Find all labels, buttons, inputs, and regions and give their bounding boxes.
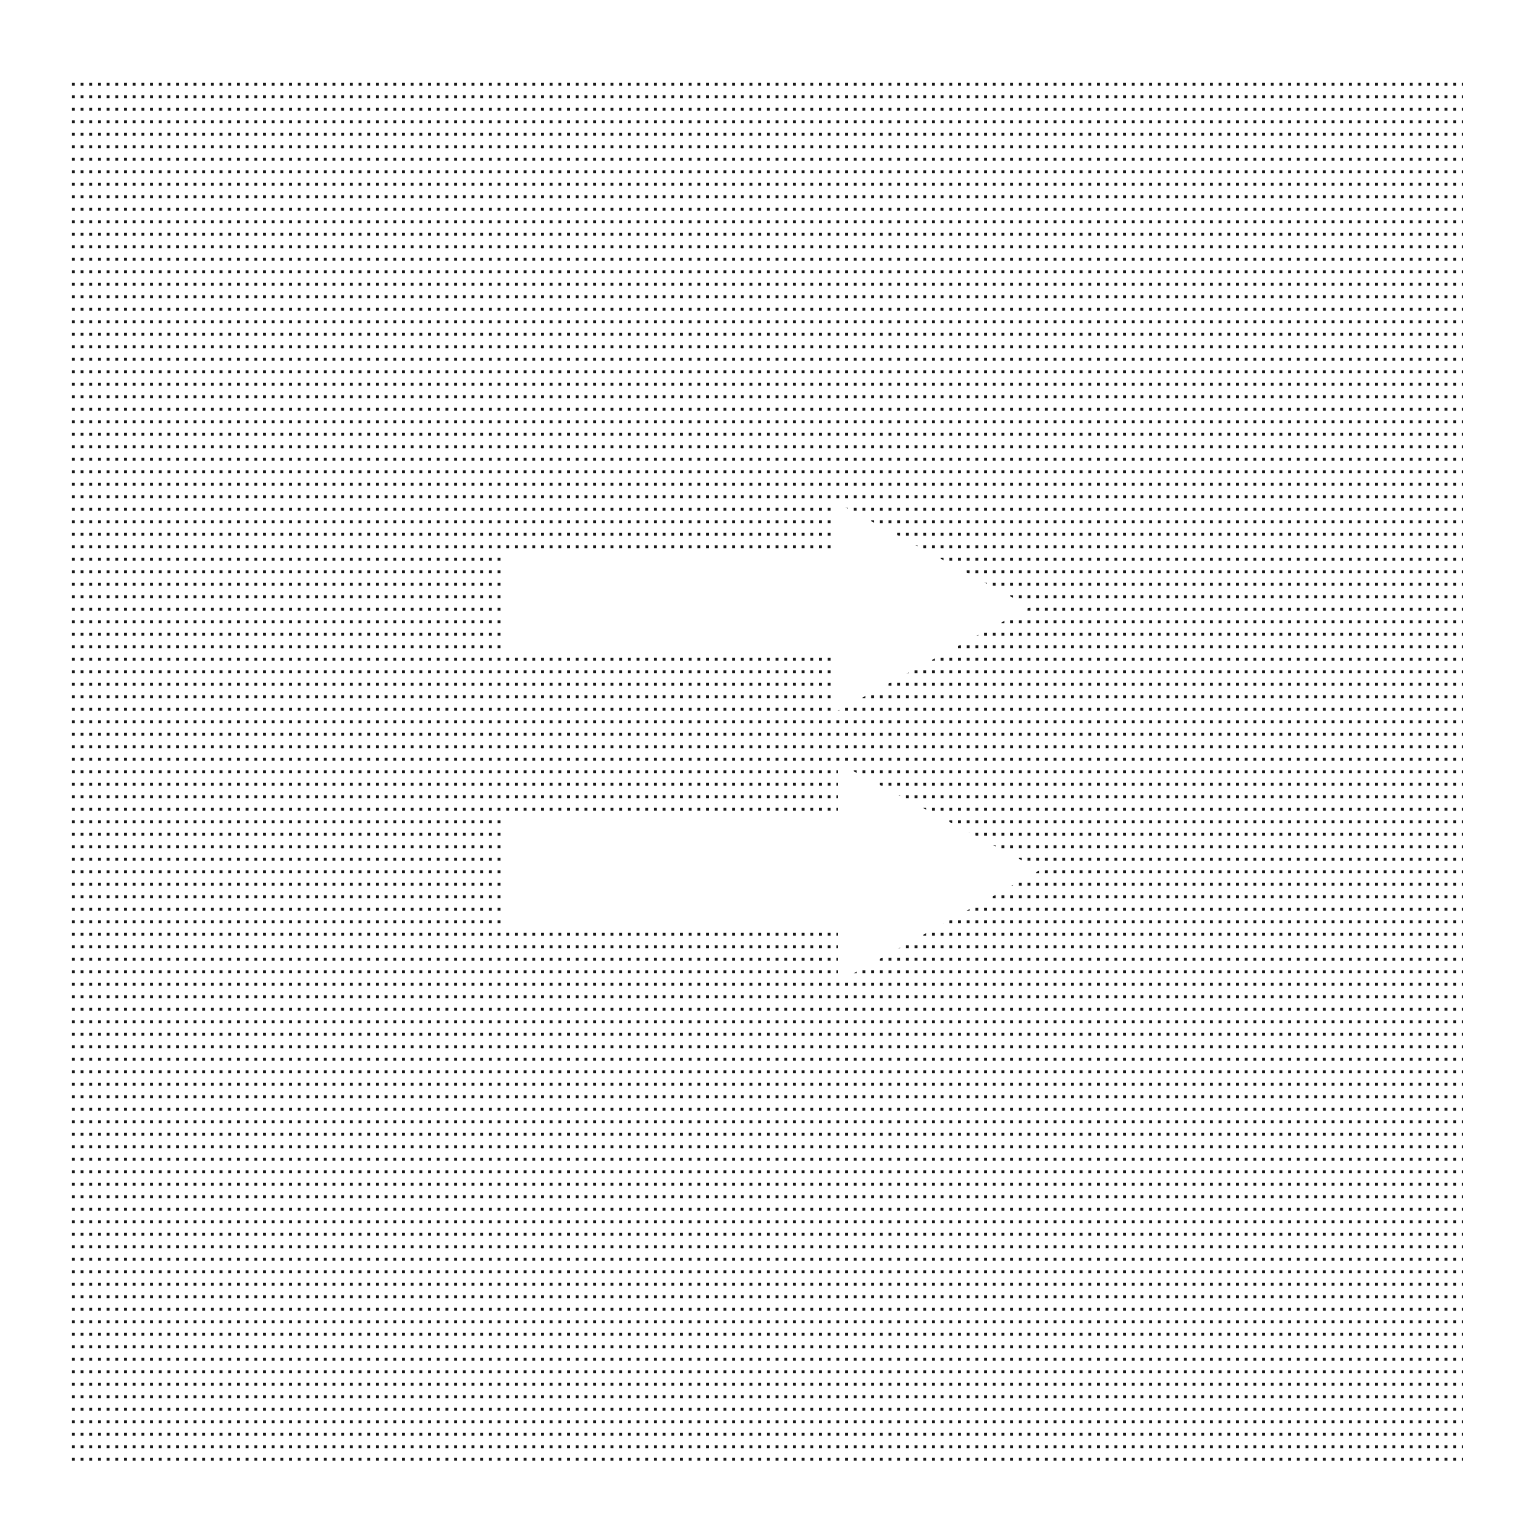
lower-right-arrow-icon xyxy=(503,763,1040,982)
arrows-layer xyxy=(0,0,1526,1538)
upper-right-arrow-icon xyxy=(503,500,1030,714)
